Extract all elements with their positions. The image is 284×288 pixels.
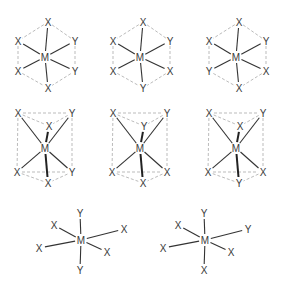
bond-upper_left	[118, 44, 135, 54]
bond-right	[211, 230, 242, 238]
ligand-label-back_top_right: Y	[164, 108, 171, 119]
bond-upper_left	[183, 228, 200, 237]
ligand-label-lower_right: X	[228, 247, 235, 258]
bond-top	[80, 219, 81, 234]
ligand-label-lower_left: X	[15, 66, 22, 77]
bond-front_top	[237, 132, 239, 142]
bond-front_top	[141, 132, 143, 142]
metal-center-label: M	[232, 143, 240, 154]
molecule-oct-3: MXXYYXX	[206, 17, 270, 94]
bond-upper_right	[241, 44, 260, 54]
ligand-label-front_top: X	[237, 121, 244, 132]
polyhedron-edge	[147, 25, 166, 38]
ligand-label-back_bottom_right: Y	[69, 167, 76, 178]
ligand-label-bottom: X	[201, 265, 208, 276]
ligand-label-front_top: Y	[141, 121, 148, 132]
polyhedron-edge	[53, 174, 68, 181]
bond-lower_right	[86, 243, 101, 250]
ligand-label-bottom: Y	[77, 265, 84, 276]
bond-left	[45, 241, 75, 247]
polyhedron-edge	[148, 115, 162, 123]
bond-bottom	[141, 63, 143, 82]
ligand-label-back_top_left: X	[110, 108, 117, 119]
ligand-label-upper_left: X	[175, 220, 182, 231]
bond-upper_right	[145, 44, 164, 54]
bond-top	[204, 219, 205, 234]
bond-back_bottom_left	[117, 152, 136, 168]
bond-bottom	[80, 246, 81, 264]
polyhedron-edge	[22, 73, 43, 85]
ligand-label-front_bottom: X	[140, 178, 147, 189]
polyhedron-edge	[208, 118, 209, 167]
polyhedron-edge	[147, 74, 166, 86]
bond-top	[237, 28, 239, 51]
bond-bottom	[204, 246, 205, 264]
bond-front_bottom	[141, 154, 143, 177]
ligand-label-front_bottom: Y	[236, 178, 243, 189]
ligand-label-back_bottom_left: X	[14, 167, 21, 178]
polyhedron-edge	[213, 25, 235, 39]
bond-front_bottom	[237, 154, 239, 177]
molecule-prism-1: MXYXXYX	[14, 108, 76, 189]
ligand-label-back_top_left: X	[206, 108, 213, 119]
polyhedron-edge	[22, 25, 44, 39]
ligand-label-back_bottom_right: X	[260, 167, 267, 178]
polyhedron-edge	[112, 118, 113, 167]
molecule-perspective-2: MYXYXXX	[160, 208, 252, 276]
ligand-label-back_top_right: Y	[260, 108, 267, 119]
bond-back_bottom_right	[144, 152, 162, 168]
ligand-label-right: Y	[245, 224, 252, 235]
ligand-label-front_top: X	[46, 121, 53, 132]
polyhedron-edge	[117, 73, 138, 85]
isomer-diagram: MXXYXYXMXXYXXYMXXYYXXMXYXXYXMXYYXXXMXYXX…	[0, 0, 284, 288]
bond-lower_left	[23, 60, 39, 68]
polyhedron-edge	[17, 118, 18, 167]
ligand-label-front_bottom: X	[45, 178, 52, 189]
polyhedron-edge	[22, 174, 44, 182]
metal-center-label: M	[232, 52, 240, 63]
ligand-label-bottom: X	[236, 83, 243, 94]
polyhedron-edge	[244, 174, 259, 181]
bond-bottom	[237, 63, 239, 82]
bond-front_top	[46, 132, 48, 142]
ligand-label-top: X	[236, 17, 243, 28]
bond-right	[87, 230, 118, 238]
molecule-oct-1: MXXYXYX	[15, 17, 79, 94]
ligand-label-upper_right: Y	[72, 36, 79, 47]
ligand-label-top: X	[45, 17, 52, 28]
bond-upper_left	[214, 44, 231, 54]
polyhedron-edge	[213, 174, 235, 182]
metal-center-label: M	[136, 143, 144, 154]
metal-center-label: M	[136, 52, 144, 63]
polyhedron-edge	[244, 115, 258, 123]
ligand-label-lower_left: Y	[206, 66, 213, 77]
bond-back_bottom_left	[213, 152, 232, 168]
bond-lower_left	[214, 60, 230, 68]
ligand-label-back_top_left: X	[15, 108, 22, 119]
molecule-prism-2: MXYYXXX	[109, 108, 171, 189]
bond-upper_right	[50, 44, 69, 54]
bond-lower_left	[118, 60, 134, 68]
polyhedron-edge	[53, 115, 67, 123]
bond-lower_right	[145, 60, 164, 69]
ligand-label-upper_left: X	[110, 36, 117, 47]
bond-lower_right	[241, 60, 260, 69]
bond-upper_left	[59, 228, 76, 237]
polyhedron-edge	[243, 74, 262, 86]
polyhedron-edge	[148, 174, 163, 181]
metal-center-label: M	[201, 235, 209, 246]
bond-lower_right	[50, 60, 69, 69]
ligand-label-right: X	[121, 224, 128, 235]
ligand-label-top: Y	[201, 208, 208, 219]
ligand-label-upper_left: X	[206, 36, 213, 47]
bond-top	[141, 28, 143, 51]
bond-back_bottom_left	[22, 152, 41, 168]
bond-bottom	[46, 63, 48, 82]
ligand-label-top: X	[140, 17, 147, 28]
bond-top	[46, 28, 48, 51]
molecule-prism-3: MXYXXXY	[205, 108, 267, 189]
ligand-label-bottom: Y	[140, 83, 147, 94]
metal-center-label: M	[41, 143, 49, 154]
molecule-perspective-1: MYXXXXY	[36, 208, 128, 276]
bond-back_bottom_right	[240, 152, 258, 168]
